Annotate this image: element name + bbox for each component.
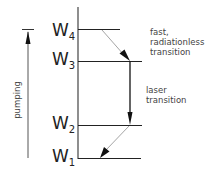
level-label-w4: W4 [52,20,75,42]
arrow-head-icon [128,112,133,125]
energy-level-diagram: pumping W4 W3 W2 W1 fast, radiationless … [0,0,217,177]
fast-transition-label: fast, radiationless transition [150,27,207,57]
laser-transition-arrow [128,62,133,126]
lower-transition-arrow [100,126,129,158]
arrow-head-icon [100,147,110,158]
laser-transition-label: laser transition [146,85,187,105]
pumping-label: pumping [12,81,22,119]
level-label-w1: W1 [52,146,75,168]
pumping-arrow [22,30,34,159]
radiationless-transition-arrow [102,30,130,61]
level-label-w2: W2 [52,113,75,135]
arrow-head-icon [26,31,31,44]
level-label-w3: W3 [52,49,75,71]
